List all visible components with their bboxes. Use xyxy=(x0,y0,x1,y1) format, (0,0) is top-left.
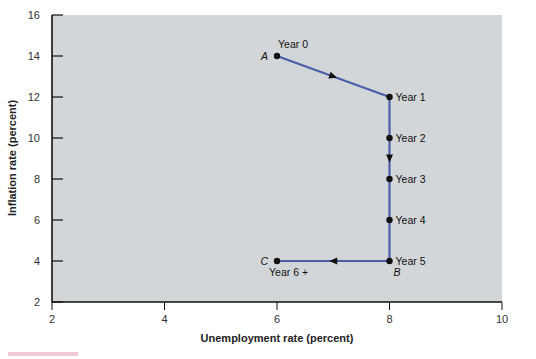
x-tick-label: 10 xyxy=(496,313,508,325)
figure-caption-cropped xyxy=(8,352,78,356)
phillips-curve-chart: 246810121416246810 Year 0AYear 1Year 2Ye… xyxy=(0,0,536,359)
x-tick-label: 2 xyxy=(49,313,55,325)
x-tick-label: 8 xyxy=(386,313,392,325)
point-label: Year 4 xyxy=(396,214,426,226)
y-tick-label: 8 xyxy=(34,173,40,185)
y-tick-label: 2 xyxy=(34,296,40,308)
point-label: Year 2 xyxy=(396,132,426,144)
y-tick-label: 10 xyxy=(28,132,40,144)
data-point xyxy=(386,217,392,223)
point-label: Year 3 xyxy=(396,173,426,185)
y-tick-label: 6 xyxy=(34,214,40,226)
x-tick-label: 6 xyxy=(274,313,280,325)
point-label: Year 1 xyxy=(396,91,426,103)
y-tick-label: 16 xyxy=(28,9,40,21)
point-letter: C xyxy=(260,255,268,267)
y-tick-label: 4 xyxy=(34,255,40,267)
data-point xyxy=(386,258,392,264)
data-point xyxy=(274,258,280,264)
x-axis-title: Unemployment rate (percent) xyxy=(201,332,354,344)
data-point xyxy=(386,135,392,141)
y-tick-label: 12 xyxy=(28,91,40,103)
data-point xyxy=(386,94,392,100)
x-tick-label: 4 xyxy=(161,313,167,325)
point-letter: A xyxy=(260,50,268,62)
point-label: Year 6 + xyxy=(269,266,308,278)
point-letter: B xyxy=(394,266,401,278)
y-tick-label: 14 xyxy=(28,50,40,62)
data-point xyxy=(274,53,280,59)
point-label: Year 0 xyxy=(278,38,308,50)
data-point xyxy=(386,176,392,182)
y-axis-title: Inflation rate (percent) xyxy=(6,100,18,216)
